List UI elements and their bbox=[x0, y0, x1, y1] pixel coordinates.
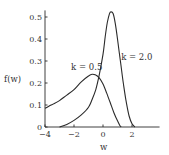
y-tick-label: 0.2 bbox=[29, 79, 42, 88]
y-tick-label: 0.1 bbox=[29, 101, 42, 110]
y-tick-label: 0.3 bbox=[29, 57, 42, 66]
x-tick-label: 2 bbox=[129, 130, 134, 139]
series-label: k = 0.5 bbox=[71, 62, 102, 72]
x-tick-label: 0 bbox=[100, 130, 105, 139]
y-tick-label: 0.5 bbox=[29, 13, 42, 22]
x-axis-label: w bbox=[100, 142, 108, 152]
series-group: k = 0.5k = 2.0 bbox=[45, 12, 152, 127]
chart: 00.10.20.30.40.5 −4−202 f(w) w k = 0.5k … bbox=[0, 0, 169, 155]
series-label: k = 2.0 bbox=[121, 52, 152, 62]
series-curve-k-0-5 bbox=[45, 74, 121, 127]
x-tick-label: −2 bbox=[68, 130, 80, 139]
x-tick-label: −4 bbox=[39, 130, 51, 139]
y-tick-label: 0.4 bbox=[29, 35, 42, 44]
y-axis-label: f(w) bbox=[4, 74, 21, 84]
